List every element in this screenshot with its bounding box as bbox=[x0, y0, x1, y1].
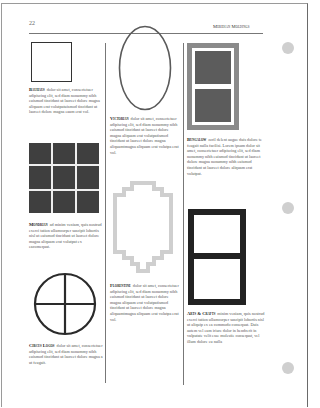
black-double-panel-icon bbox=[188, 209, 246, 305]
arts-crafts-title: Arts & Crafts bbox=[187, 311, 215, 316]
oval-icon bbox=[118, 25, 172, 111]
bauhaus-entry: Bauhausdolor sit amet, consectetuer adip… bbox=[29, 87, 101, 115]
victorian-title: Victorian bbox=[110, 116, 129, 121]
florentine-text: dolor sit amet, consectetuer adipiscing … bbox=[110, 283, 179, 322]
circus-logos-title: Circus Logos bbox=[29, 343, 55, 348]
circus-logos-graphic bbox=[33, 272, 97, 336]
mondrian-entry: Mondrianad minim veniam, quis nostrud ex… bbox=[29, 222, 103, 250]
victorian-text: dolor sit amet, consectetuer adipiscing … bbox=[110, 116, 179, 155]
grid-icon bbox=[29, 143, 99, 213]
florentine-entry: Florentinedolor sit amet, consectetuer a… bbox=[110, 283, 180, 322]
bungalow-panel-graphic bbox=[187, 43, 239, 130]
florentine-frame-graphic bbox=[112, 180, 174, 274]
punch-hole bbox=[282, 42, 294, 54]
column-divider bbox=[183, 43, 184, 385]
bungalow-text: zzril delent augue duis dolore te feugai… bbox=[187, 137, 262, 176]
stepped-frame-icon bbox=[112, 180, 174, 274]
arts-crafts-entry: Arts & Craftsminim veniam, quis nostrud … bbox=[187, 311, 265, 345]
circle-cross-icon bbox=[33, 272, 97, 336]
bungalow-title: Bungalow bbox=[187, 137, 206, 142]
mondrian-grid-graphic bbox=[29, 143, 99, 213]
running-head: Meridian Moldings bbox=[213, 24, 250, 29]
column-divider bbox=[105, 43, 106, 383]
victorian-entry: Victoriandolor sit amet, consectetuer ad… bbox=[110, 116, 180, 155]
circus-logos-entry: Circus Logosdolor sit amet, consectetuer… bbox=[29, 343, 103, 365]
arts-crafts-panel-graphic bbox=[188, 209, 246, 305]
punch-hole bbox=[282, 362, 294, 374]
bauhaus-square-graphic bbox=[31, 42, 72, 82]
arts-crafts-text: minim veniam, quis nostrud exerci tation… bbox=[187, 311, 264, 344]
punch-hole bbox=[282, 202, 294, 214]
double-panel-icon bbox=[187, 43, 239, 130]
victorian-oval-graphic bbox=[118, 25, 172, 111]
bungalow-entry: Bungalowzzril delent augue duis dolore t… bbox=[187, 137, 263, 176]
florentine-title: Florentine bbox=[110, 283, 131, 288]
bauhaus-title: Bauhaus bbox=[29, 87, 45, 92]
page-number: 22 bbox=[29, 20, 35, 26]
mondrian-title: Mondrian bbox=[29, 222, 48, 227]
